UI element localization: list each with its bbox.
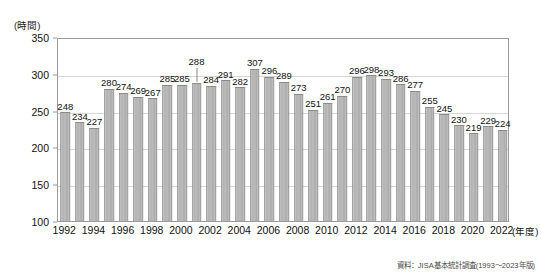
- bar[interactable]: [323, 103, 333, 221]
- bar-value-label: 296: [349, 66, 365, 76]
- bar[interactable]: [163, 85, 173, 221]
- bar-value-label: 230: [451, 115, 467, 125]
- bar[interactable]: [206, 86, 216, 221]
- x-axis-unit-label: (年度): [512, 224, 538, 238]
- x-tick-label: 2000: [169, 224, 192, 236]
- x-tick-label: 2020: [461, 224, 484, 236]
- bar-slot: 274: [116, 39, 131, 221]
- bar[interactable]: [440, 114, 450, 221]
- x-tick-label: 2014: [373, 224, 396, 236]
- y-tick-label: 150: [31, 179, 49, 191]
- bar[interactable]: [469, 133, 479, 221]
- bar-value-label: 282: [232, 77, 248, 87]
- x-tick-label: 1994: [82, 224, 105, 236]
- bar[interactable]: [279, 82, 289, 221]
- bar[interactable]: [235, 87, 245, 221]
- plot-area: 2482342272802742692672852852882842912823…: [57, 38, 509, 222]
- y-tick-label: 350: [31, 32, 49, 44]
- bar[interactable]: [410, 91, 420, 221]
- bar-slot: 261: [320, 39, 335, 221]
- bar-value-label: 269: [130, 86, 146, 96]
- source-note: 資料：JISA基本統計調査(1993〜2023年版): [397, 259, 535, 270]
- bar-value-label: 234: [72, 112, 88, 122]
- bar-slot: 224: [495, 39, 510, 221]
- x-tick-label: 2022: [490, 224, 513, 236]
- bar-slot: 248: [58, 39, 73, 221]
- x-tick-label: 1992: [53, 224, 76, 236]
- x-tick-label: 2008: [286, 224, 309, 236]
- x-axis: 1992199419961998200020022004200620082010…: [57, 224, 509, 242]
- bar-slot: 270: [335, 39, 350, 221]
- bar-slot: 296: [262, 39, 277, 221]
- bar-value-label: 285: [159, 74, 175, 84]
- bar[interactable]: [265, 77, 275, 221]
- bar[interactable]: [367, 75, 377, 221]
- bar-value-label: 270: [334, 85, 350, 95]
- bar[interactable]: [177, 85, 187, 221]
- bar-value-label: 284: [203, 75, 219, 85]
- bar-slot: 280: [102, 39, 117, 221]
- x-tick-label: 1996: [111, 224, 134, 236]
- bar-value-label: 291: [218, 70, 234, 80]
- bar-value-label: 289: [276, 71, 292, 81]
- bar-value-label: 286: [393, 74, 409, 84]
- bar-slot: 230: [452, 39, 467, 221]
- bar[interactable]: [148, 98, 158, 221]
- bar[interactable]: [75, 122, 85, 221]
- bar-slot: 286: [393, 39, 408, 221]
- bar[interactable]: [221, 80, 231, 221]
- bar[interactable]: [454, 125, 464, 221]
- bar-value-label: 285: [174, 74, 190, 84]
- bar[interactable]: [119, 93, 129, 221]
- bar[interactable]: [381, 79, 391, 221]
- y-tick-label: 100: [31, 216, 49, 228]
- bar-slot: 273: [291, 39, 306, 221]
- bar-value-label: 277: [407, 80, 423, 90]
- x-tick-label: 2004: [228, 224, 251, 236]
- bar[interactable]: [352, 77, 362, 221]
- bar[interactable]: [60, 112, 70, 221]
- bar[interactable]: [192, 83, 202, 221]
- bar[interactable]: [90, 128, 100, 221]
- y-axis-unit-label: (時間): [14, 18, 40, 32]
- bar-slot: 285: [160, 39, 175, 221]
- bar-slot: 293: [379, 39, 394, 221]
- bar-slot: 234: [73, 39, 88, 221]
- bar[interactable]: [425, 107, 435, 221]
- bar-value-label: 267: [145, 88, 161, 98]
- bar-slot: 282: [233, 39, 248, 221]
- y-tick-label: 250: [31, 106, 49, 118]
- bar-value-label: 224: [495, 119, 511, 129]
- bar-slot: 229: [481, 39, 496, 221]
- x-tick-label: 2010: [315, 224, 338, 236]
- x-tick-label: 2018: [432, 224, 455, 236]
- bar-value-label: 298: [364, 65, 380, 75]
- bar-value-label: 255: [422, 96, 438, 106]
- bar-value-label: 245: [436, 104, 452, 114]
- bar-slot: 255: [423, 39, 438, 221]
- bar-slot: 277: [408, 39, 423, 221]
- bar[interactable]: [396, 84, 406, 221]
- bar-value-label: 293: [378, 68, 394, 78]
- bar-value-label: 307: [247, 58, 263, 68]
- bar-slot: 269: [131, 39, 146, 221]
- bar-slot: 298: [364, 39, 379, 221]
- bar-value-label: 288: [189, 57, 205, 67]
- bar-series: 2482342272802742692672852852882842912823…: [58, 39, 508, 221]
- bar[interactable]: [133, 97, 143, 221]
- bar[interactable]: [483, 126, 493, 221]
- bar[interactable]: [294, 94, 304, 221]
- bar-value-label: 227: [87, 117, 103, 127]
- bar[interactable]: [338, 96, 348, 221]
- bar-value-label: 274: [116, 82, 132, 92]
- label-leader-line: [196, 68, 197, 82]
- bar[interactable]: [498, 130, 508, 221]
- bar-value-label: 296: [261, 66, 277, 76]
- x-tick-label: 2006: [257, 224, 280, 236]
- bar[interactable]: [308, 110, 318, 221]
- bar-slot: 307: [248, 39, 263, 221]
- bar[interactable]: [250, 69, 260, 221]
- bar[interactable]: [104, 89, 114, 221]
- bar-slot: 291: [218, 39, 233, 221]
- bar-slot: 245: [437, 39, 452, 221]
